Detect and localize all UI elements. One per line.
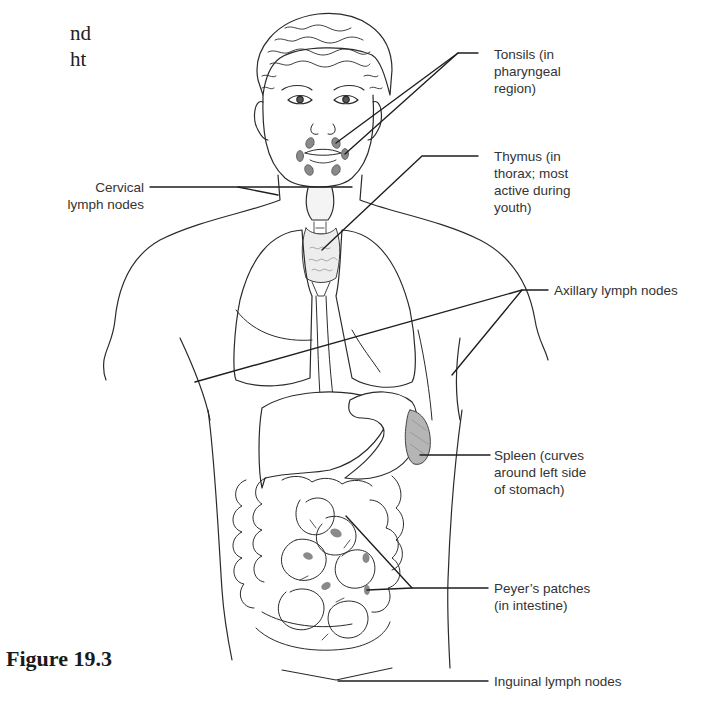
lymphatic-body-diagram bbox=[0, 0, 705, 706]
label-cervical-lymph-nodes: Cervical lymph nodes bbox=[48, 179, 144, 213]
label-peyers-patches: Peyer’s patches (in intestine) bbox=[494, 580, 590, 614]
spleen-illustration bbox=[405, 410, 430, 464]
label-thymus: Thymus (in thorax; most active during yo… bbox=[494, 148, 571, 216]
label-inguinal-lymph-nodes: Inguinal lymph nodes bbox=[494, 673, 622, 690]
tonsils-illustration bbox=[297, 136, 349, 176]
figure-caption: Figure 19.3 bbox=[6, 646, 112, 672]
leader-lines bbox=[150, 53, 548, 681]
label-axillary-lymph-nodes: Axillary lymph nodes bbox=[554, 282, 678, 299]
peyers-patches-illustration bbox=[302, 527, 370, 595]
label-spleen: Spleen (curves around left side of stoma… bbox=[494, 447, 586, 498]
intestines-illustration bbox=[233, 476, 404, 650]
label-tonsils: Tonsils (in pharyngeal region) bbox=[494, 46, 561, 97]
inguinal-region-lines bbox=[282, 668, 392, 680]
thymus-illustration bbox=[302, 188, 340, 420]
head-illustration bbox=[255, 13, 392, 187]
